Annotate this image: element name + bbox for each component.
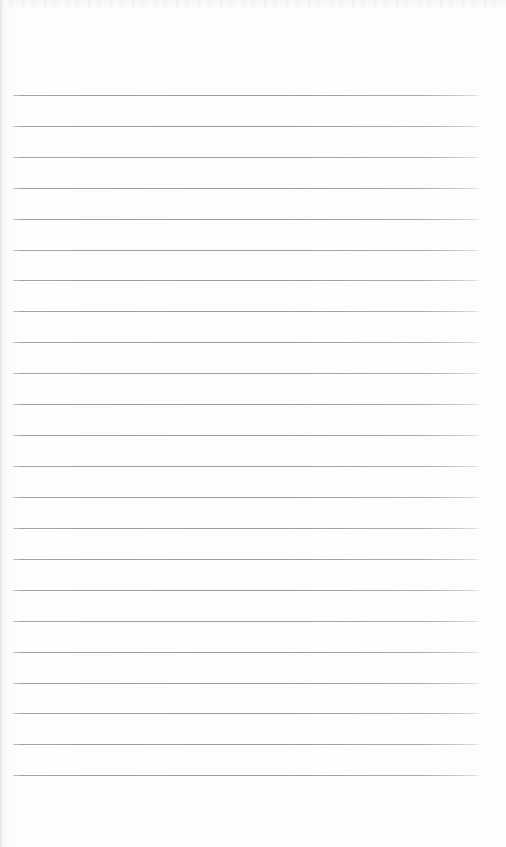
rule-line	[13, 621, 478, 622]
rule-line	[13, 683, 478, 684]
rule-line	[13, 466, 478, 467]
rule-line	[13, 188, 478, 189]
lined-page	[0, 0, 506, 847]
ruled-lines-group	[0, 0, 506, 847]
rule-line	[13, 497, 478, 498]
rule-line	[13, 311, 478, 312]
rule-line	[13, 342, 478, 343]
rule-line	[13, 590, 478, 591]
rule-line	[13, 404, 478, 405]
rule-line	[13, 95, 478, 96]
rule-line	[13, 373, 478, 374]
rule-line	[13, 126, 478, 127]
rule-line	[13, 528, 478, 529]
rule-line	[13, 559, 478, 560]
rule-line	[13, 652, 478, 653]
rule-line	[13, 744, 478, 745]
footer-blank-zone	[0, 781, 506, 847]
rule-line	[13, 713, 478, 714]
rule-line	[13, 280, 478, 281]
rule-line	[13, 219, 478, 220]
rule-line	[13, 775, 478, 776]
rule-line	[13, 157, 478, 158]
rule-line	[13, 435, 478, 436]
rule-line	[13, 250, 478, 251]
